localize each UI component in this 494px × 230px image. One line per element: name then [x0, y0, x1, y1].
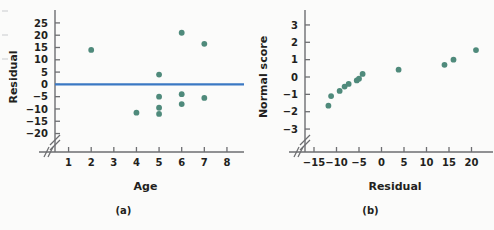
- scatterplot-panel-a: 2520151050−5−10−15−2012345678AgeResidual…: [0, 0, 247, 230]
- data-point: [346, 81, 352, 87]
- y-axis-tick-label: 3: [291, 20, 298, 31]
- x-axis-tick-label: −5: [351, 157, 366, 168]
- data-point: [326, 103, 332, 109]
- y-axis-tick-label: 10: [34, 54, 48, 65]
- x-axis-tick-label: 3: [110, 157, 117, 168]
- x-axis-tick-label: −15: [303, 157, 325, 168]
- panel-a-caption: (a): [0, 205, 247, 216]
- figure-page: 2520151050−5−10−15−2012345678AgeResidual…: [0, 0, 494, 230]
- data-point: [356, 76, 362, 82]
- y-axis-title: Normal score: [257, 36, 270, 118]
- data-point: [328, 93, 334, 99]
- x-axis-tick-label: 1: [65, 157, 72, 168]
- data-point: [360, 71, 366, 77]
- x-axis-tick-label: 2: [88, 157, 95, 168]
- data-point: [134, 110, 140, 116]
- data-point: [451, 57, 457, 63]
- x-axis-tick-label: 20: [465, 157, 479, 168]
- normal-probability-plot: 3210−1−2−3−15−10−505101520ResidualNormal…: [247, 0, 494, 205]
- x-axis-tick-label: 5: [401, 157, 408, 168]
- scatterplot-panel-b: 3210−1−2−3−15−10−505101520ResidualNormal…: [247, 0, 494, 230]
- x-axis-tick-label: 8: [223, 157, 230, 168]
- residual-vs-age-plot: 2520151050−5−10−15−2012345678AgeResidual: [0, 0, 247, 205]
- x-axis-tick-label: 4: [133, 157, 140, 168]
- y-axis-tick-label: −20: [26, 128, 48, 139]
- y-axis-tick-label: 25: [34, 18, 48, 29]
- data-point: [88, 47, 94, 53]
- y-axis-tick-label: −15: [26, 116, 48, 127]
- data-point: [179, 101, 185, 107]
- data-point: [473, 47, 479, 53]
- y-axis-tick-label: 1: [291, 54, 298, 65]
- x-axis-tick-label: −10: [325, 157, 347, 168]
- y-axis-tick-label: 2: [291, 37, 298, 48]
- y-axis-tick-label: 0: [41, 79, 48, 90]
- x-axis-tick-label: 10: [420, 157, 434, 168]
- x-axis-tick-label: 7: [201, 157, 208, 168]
- y-axis-tick-label: −3: [283, 124, 298, 135]
- data-point: [156, 105, 162, 111]
- data-point: [396, 67, 402, 73]
- y-axis-tick-label: 15: [34, 42, 48, 53]
- data-point: [179, 91, 185, 97]
- data-point: [337, 88, 343, 94]
- y-axis-tick-label: 20: [34, 30, 48, 41]
- y-axis-tick-label: −10: [26, 104, 48, 115]
- y-axis-tick-label: 0: [291, 72, 298, 83]
- panel-b-caption: (b): [247, 205, 494, 216]
- x-axis-tick-label: 15: [442, 157, 456, 168]
- data-point: [156, 72, 162, 78]
- y-axis-tick-label: −2: [283, 106, 298, 117]
- x-axis-title: Residual: [368, 180, 421, 193]
- x-axis-tick-label: 0: [378, 157, 385, 168]
- data-point: [156, 94, 162, 100]
- y-axis-tick-label: −5: [33, 91, 48, 102]
- y-axis-tick-label: −1: [283, 89, 298, 100]
- data-point: [201, 95, 207, 101]
- x-axis-title: Age: [134, 180, 158, 193]
- data-point: [442, 62, 448, 68]
- x-axis-tick-label: 5: [156, 157, 163, 168]
- data-point: [201, 41, 207, 47]
- data-point: [156, 111, 162, 117]
- y-axis-tick-label: 5: [41, 67, 48, 78]
- y-axis-title: Residual: [7, 50, 20, 103]
- x-axis-tick-label: 6: [178, 157, 185, 168]
- data-point: [179, 30, 185, 36]
